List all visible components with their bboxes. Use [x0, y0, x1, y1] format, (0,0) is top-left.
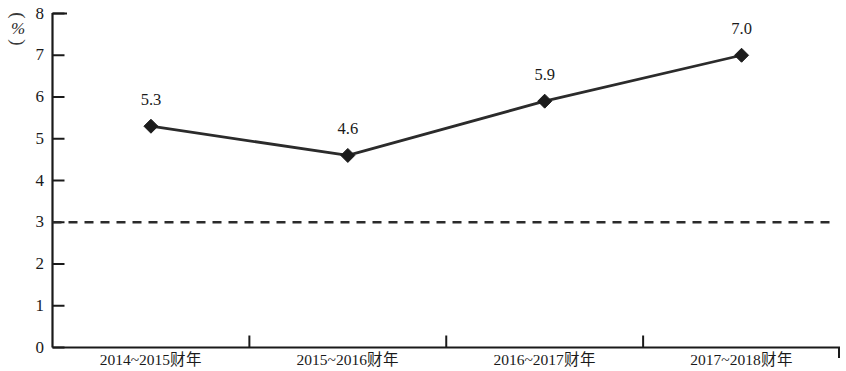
data-point-value-label: 5.3 — [141, 92, 162, 109]
y-axis-tick-label: 2 — [18, 255, 44, 272]
line-chart: ( % ) 012345678 2014~2015财年2015~2016财年20… — [0, 0, 846, 371]
x-axis-category-label: 2016~2017财年 — [446, 352, 643, 368]
y-axis-tick-label: 7 — [18, 46, 44, 63]
y-axis-tick-marks — [53, 14, 65, 348]
y-axis-tick-label: 3 — [18, 213, 44, 230]
y-axis-tick-label: 8 — [18, 5, 44, 22]
data-point-value-label: 5.9 — [534, 67, 555, 84]
plot-area — [0, 0, 846, 371]
y-axis-tick-label: 4 — [18, 172, 44, 189]
data-point-value-label: 7.0 — [731, 21, 752, 38]
data-point-value-label: 4.6 — [338, 121, 359, 138]
x-axis-category-label: 2014~2015财年 — [53, 352, 250, 368]
series-markers — [144, 48, 749, 162]
y-axis-tick-label: 5 — [18, 130, 44, 147]
y-axis-tick-label: 6 — [18, 88, 44, 105]
y-axis-tick-label: 1 — [18, 297, 44, 314]
x-axis-category-label: 2017~2018财年 — [643, 352, 840, 368]
y-axis-tick-label: 0 — [18, 339, 44, 356]
series-line — [151, 55, 742, 155]
x-axis-tick-marks — [249, 336, 643, 348]
x-axis-category-label: 2015~2016财年 — [249, 352, 446, 368]
